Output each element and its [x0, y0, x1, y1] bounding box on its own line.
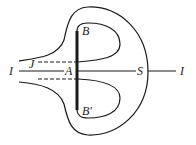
diagram: I J A B B′ S I: [0, 0, 196, 145]
label-j: J: [29, 57, 35, 71]
label-a: A: [64, 64, 73, 78]
label-i-left: I: [8, 64, 14, 78]
label-s: S: [137, 64, 143, 78]
label-b-prime: B′: [82, 104, 92, 118]
label-i-right: I: [179, 64, 185, 78]
label-b: B: [82, 24, 90, 38]
